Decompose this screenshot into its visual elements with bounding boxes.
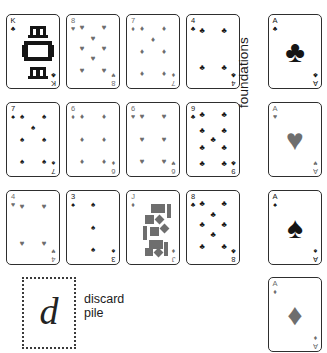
card-pip-field: ♣♣♣♣: [191, 19, 235, 84]
card-pip: ♥: [140, 158, 145, 166]
tableau-card-8-clubs[interactable]: 8♣8♣♣♣♣♣♣♣♣♣: [186, 190, 240, 265]
foundation-card-a-hearts[interactable]: A♥A♥♥: [268, 102, 322, 177]
tableau-card-9-clubs[interactable]: 9♣9♣♣♣♣♣♣♣♣♣♣: [186, 102, 240, 177]
card-pip: ♥: [80, 24, 85, 32]
card-pip: ♥: [20, 240, 25, 248]
tableau-card-4-clubs[interactable]: 4♣4♣♣♣♣♣: [186, 14, 240, 89]
discard-pile-slot[interactable]: d: [22, 277, 76, 349]
card-pip-field: ♠♠♠♠♠♠♠: [11, 107, 55, 172]
card-pip: ♠: [42, 158, 46, 166]
card-pip: ♦: [80, 136, 84, 144]
card-pip: ♥: [91, 35, 96, 43]
card-pip: ♥: [42, 240, 47, 248]
card-pip: ♠: [20, 113, 24, 121]
card-pip: ♥: [162, 136, 167, 144]
card-pip-field: [131, 195, 175, 260]
foundations-label: foundations: [236, 0, 252, 108]
card-pip: ♣: [221, 144, 226, 152]
card-pip: ♥: [20, 203, 25, 211]
card-pip: ♣: [199, 111, 204, 119]
card-center-pip: ♠: [287, 213, 303, 243]
card-pip: ♥: [140, 136, 145, 144]
card-pip: ♦: [162, 70, 166, 78]
card-pip: ♣: [199, 160, 204, 168]
card-center-pip: ♣: [285, 37, 305, 67]
card-pip: ♣: [199, 243, 204, 251]
card-pip-field: ♣♣♣♣♣♣♣♣♣: [191, 107, 235, 172]
card-pip-field: ♥♥♥♥♥♥♥♥: [71, 19, 115, 84]
court-card-art: [19, 26, 57, 87]
card-pip: ♣: [199, 144, 204, 152]
card-pip: ♦: [162, 25, 166, 33]
card-pip: ♥: [102, 67, 107, 75]
card-pip: ♣: [221, 243, 226, 251]
card-pip-field: ♥♥♥♥♥♥: [131, 107, 175, 172]
card-pip: ♣: [221, 160, 226, 168]
discard-pile-label: discard pile: [84, 292, 124, 320]
card-pip: ♣: [199, 221, 204, 229]
tableau-card-7-spades[interactable]: 7♠7♠♠♠♠♠♠♠♠: [6, 102, 60, 177]
card-pip: ♠: [91, 246, 95, 254]
card-pip: ♠: [91, 224, 95, 232]
card-pip: ♣: [199, 127, 204, 135]
tableau-card-4-hearts[interactable]: 4♥4♥♥♥♥♥: [6, 190, 60, 265]
card-pip: ♠: [31, 124, 35, 132]
card-pip-field: ♥: [273, 107, 317, 172]
tableau-card-8-hearts[interactable]: 8♥8♥♥♥♥♥♥♥♥♥: [66, 14, 120, 89]
discard-placeholder-glyph: d: [24, 279, 74, 347]
tableau-card-6-diamonds[interactable]: 6♦6♦♦♦♦♦♦♦: [66, 102, 120, 177]
card-pip: ♣: [210, 231, 215, 239]
card-pip: ♦: [140, 48, 144, 56]
card-pip: ♥: [80, 67, 85, 75]
card-pip: ♣: [221, 27, 226, 35]
card-pip-field: ♦: [273, 282, 317, 347]
card-pip: ♣: [221, 200, 226, 208]
foundation-card-a-diamonds[interactable]: A♦A♦♦: [268, 277, 322, 352]
card-pip: ♠: [42, 113, 46, 121]
card-pip-field: [11, 19, 55, 84]
card-pip: ♥: [80, 45, 85, 53]
card-pip: ♥: [140, 113, 145, 121]
foundation-card-a-clubs[interactable]: A♣A♣♣: [268, 14, 322, 89]
card-pip: ♥: [102, 45, 107, 53]
card-pip: ♦: [102, 158, 106, 166]
card-pip: ♣: [199, 200, 204, 208]
tableau-card-k-clubs[interactable]: K♣K♣: [6, 14, 60, 89]
card-pip-field: ♣: [273, 19, 317, 84]
card-pip: ♦: [162, 48, 166, 56]
tableau-card-6-hearts[interactable]: 6♥6♥♥♥♥♥♥♥: [126, 102, 180, 177]
discard-label-line1: discard: [84, 292, 124, 306]
card-pip: ♠: [91, 201, 95, 209]
card-pip: ♥: [102, 24, 107, 32]
card-pip-field: ♠: [273, 195, 317, 260]
card-pip: ♣: [221, 221, 226, 229]
card-pip-field: ♦♦♦♦♦♦: [71, 107, 115, 172]
card-pip: ♣: [199, 27, 204, 35]
card-pip: ♠: [42, 136, 46, 144]
card-pip: ♣: [221, 127, 226, 135]
card-pip: ♣: [221, 111, 226, 119]
card-pip: ♦: [151, 36, 155, 44]
solitaire-board: K♣K♣8♥8♥♥♥♥♥♥♥♥♥7♦7♦♦♦♦♦♦♦♦4♣4♣♣♣♣♣7♠7♠♠…: [0, 0, 327, 353]
card-center-pip: ♦: [287, 300, 302, 330]
card-pip: ♣: [210, 211, 215, 219]
tableau-card-3-spades[interactable]: 3♠3♠♠♠♠: [66, 190, 120, 265]
card-pip: ♦: [80, 158, 84, 166]
card-pip: ♥: [91, 55, 96, 63]
card-pip: ♣: [199, 64, 204, 72]
card-pip: ♠: [20, 158, 24, 166]
card-pip: ♦: [80, 113, 84, 121]
card-pip: ♥: [42, 203, 47, 211]
foundation-card-a-spades[interactable]: A♠A♠♠: [268, 190, 322, 265]
card-pip: ♥: [162, 158, 167, 166]
card-pip: ♦: [140, 70, 144, 78]
card-pip: ♠: [20, 136, 24, 144]
tableau-card-7-diamonds[interactable]: 7♦7♦♦♦♦♦♦♦♦: [126, 14, 180, 89]
card-pip: ♣: [221, 64, 226, 72]
card-pip-field: ♣♣♣♣♣♣♣♣: [191, 195, 235, 260]
card-pip: ♦: [102, 136, 106, 144]
card-pip-field: ♦♦♦♦♦♦♦: [131, 19, 175, 84]
tableau-card-j-diamonds[interactable]: J♦J♦: [126, 190, 180, 265]
card-center-pip: ♥: [286, 125, 304, 155]
card-pip: ♥: [162, 113, 167, 121]
